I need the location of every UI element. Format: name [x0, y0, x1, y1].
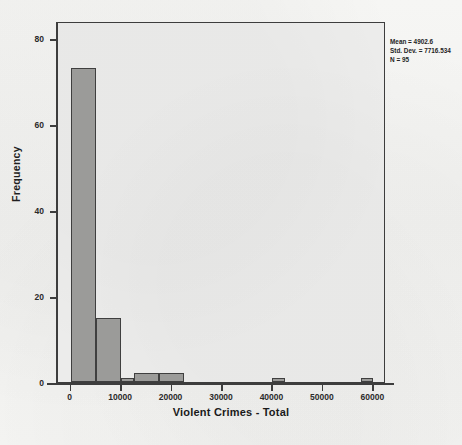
y-axis-line	[56, 22, 58, 384]
histogram-bar	[159, 373, 184, 382]
x-axis-tick	[120, 384, 122, 391]
histogram-bar	[361, 378, 374, 382]
stat-n: N = 95	[390, 55, 462, 64]
stat-mean: Mean = 4902.6	[390, 37, 462, 46]
stat-std-dev: Std. Dev. = 7716.534	[390, 46, 462, 55]
x-axis-tick	[372, 384, 374, 391]
histogram-bar	[272, 378, 285, 382]
x-axis-title: Violent Crimes - Total	[0, 406, 462, 418]
y-axis-tick	[50, 125, 57, 127]
histogram-bar	[121, 378, 134, 382]
plot-area	[58, 23, 384, 382]
y-axis-tick	[50, 39, 57, 41]
y-axis-tick	[50, 297, 57, 299]
y-axis-tick-label: 80	[10, 34, 44, 44]
x-axis-tick	[322, 384, 324, 391]
y-axis-title: Frequency	[10, 114, 22, 234]
x-axis-tick	[70, 384, 72, 391]
histogram-bar	[96, 318, 121, 382]
y-axis-tick-label: 20	[10, 292, 44, 302]
y-axis-tick	[50, 211, 57, 213]
x-axis-tick	[221, 384, 223, 391]
x-axis-tick	[271, 384, 273, 391]
statistics-annotation: Mean = 4902.6 Std. Dev. = 7716.534 N = 9…	[390, 37, 462, 64]
y-axis-tick-label: 0	[10, 378, 44, 388]
x-axis-tick	[171, 384, 173, 391]
x-axis-tick-label: 60000	[342, 392, 402, 402]
plot-frame	[57, 22, 385, 383]
histogram-bar	[134, 373, 159, 382]
histogram-bar	[71, 68, 96, 382]
